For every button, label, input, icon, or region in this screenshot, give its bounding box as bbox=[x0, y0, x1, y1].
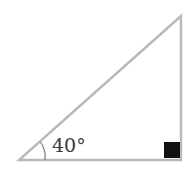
triangle bbox=[19, 16, 181, 160]
right-triangle-diagram: 40° bbox=[0, 0, 195, 169]
angle-label: 40° bbox=[52, 134, 86, 156]
right-angle-marker bbox=[164, 142, 180, 158]
angle-arc bbox=[41, 142, 46, 160]
